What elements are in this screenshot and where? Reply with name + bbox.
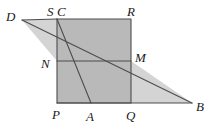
vertex-label-R: R (126, 4, 135, 19)
vertex-label-B: B (196, 99, 204, 114)
vertex-label-M: M (134, 50, 147, 65)
vertex-label-N: N (40, 56, 51, 71)
vertex-label-P: P (51, 107, 60, 122)
vertex-label-Q: Q (126, 108, 136, 123)
vertex-label-C: C (57, 4, 66, 19)
right-triangle-region (131, 61, 192, 103)
vertex-label-A: A (85, 109, 94, 124)
left-triangle-region (22, 19, 57, 61)
vertex-label-D: D (5, 9, 16, 24)
geometry-figure-container: D S C R N M P A Q B (0, 0, 214, 127)
vertex-label-S: S (47, 4, 54, 19)
geometry-diagram: D S C R N M P A Q B (0, 0, 214, 127)
